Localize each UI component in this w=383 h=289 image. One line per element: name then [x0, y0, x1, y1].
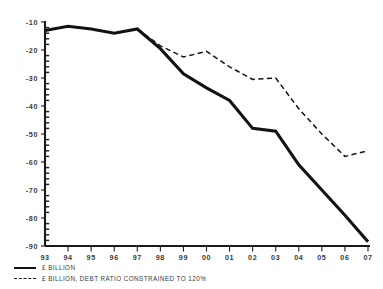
x-tick-label: 07: [363, 253, 372, 262]
series-line-dashed: [137, 29, 368, 156]
legend-label-solid: £ BILLION: [42, 264, 75, 271]
x-tick-label: 01: [225, 253, 234, 262]
x-tick-label: 98: [156, 253, 165, 262]
legend-swatch-dashed-line-icon: [14, 274, 36, 284]
x-tick-label: 00: [202, 253, 211, 262]
x-tick-label: 06: [340, 253, 349, 262]
y-tick-label: -80: [26, 214, 38, 223]
x-tick-label: 97: [133, 253, 142, 262]
x-tick-label: 96: [110, 253, 119, 262]
y-tick-label: -90: [26, 242, 38, 251]
x-tick-label: 94: [63, 253, 72, 262]
x-tick-label: 95: [87, 253, 96, 262]
chart-legend: £ BILLION £ BILLION, DEBT RATIO CONSTRAI…: [14, 262, 374, 284]
x-tick-label: 93: [40, 253, 49, 262]
x-tick-label: 99: [179, 253, 188, 262]
y-tick-label: -50: [26, 130, 38, 139]
chart-container: -10-20-30-40-50-60-70-80-90 939495969798…: [0, 0, 383, 289]
x-axis: 939495969798990001020304050607: [40, 246, 372, 262]
x-tick-label: 03: [271, 253, 280, 262]
y-tick-label: -30: [26, 74, 38, 83]
y-tick-label: -20: [26, 46, 38, 55]
x-tick-label: 04: [294, 253, 303, 262]
x-tick-label: 05: [317, 253, 326, 262]
line-chart-plot: -10-20-30-40-50-60-70-80-90 939495969798…: [0, 0, 383, 289]
y-tick-label: -40: [26, 102, 38, 111]
legend-swatch-solid-line-icon: [14, 263, 36, 273]
legend-item-solid: £ BILLION: [14, 262, 374, 273]
y-tick-label: -10: [26, 18, 38, 27]
legend-item-dashed: £ BILLION, DEBT RATIO CONSTRAINED TO 120…: [14, 273, 374, 284]
x-tick-label: 02: [248, 253, 257, 262]
y-tick-label: -60: [26, 158, 38, 167]
data-series-group: [45, 26, 368, 242]
legend-label-dashed: £ BILLION, DEBT RATIO CONSTRAINED TO 120…: [42, 275, 206, 282]
y-tick-label: -70: [26, 186, 38, 195]
y-axis: -10-20-30-40-50-60-70-80-90: [26, 18, 49, 251]
series-line-solid: [45, 26, 368, 242]
